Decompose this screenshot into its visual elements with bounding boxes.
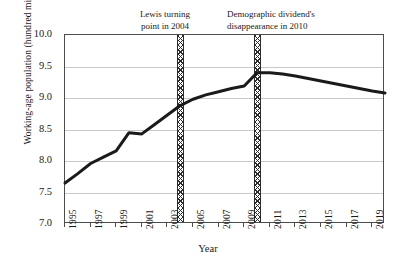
x-axis-tick-label: 2015	[324, 209, 334, 229]
y-axis-tick-labels: 10.09.59.08.58.07.57.0	[0, 0, 60, 266]
plot-area	[64, 34, 384, 223]
x-axis-tick-mark	[320, 223, 321, 227]
x-axis-tick-label: 2007	[222, 209, 232, 229]
x-axis-tick-mark	[218, 223, 219, 227]
y-axis-tick-label: 7.5	[6, 187, 52, 197]
x-axis-tick-mark	[294, 223, 295, 227]
x-axis-tick-mark	[64, 223, 65, 227]
chart-figure: Working-age population (hundred million)…	[0, 0, 400, 266]
x-axis-tick-label: 1995	[68, 209, 78, 229]
annotation-demographic-dividend: Demographic dividend's disappearance in …	[227, 9, 357, 32]
y-axis-tick-label: 9.5	[6, 61, 52, 71]
x-axis-tick-label: 2005	[196, 209, 206, 229]
x-axis-tick-label: 2003	[170, 209, 180, 229]
y-axis-tick-label: 7.0	[6, 218, 52, 228]
x-axis-tick-mark	[243, 223, 244, 227]
y-axis-tick-label: 8.0	[6, 155, 52, 165]
x-axis-tick-label: 2019	[375, 209, 385, 229]
x-axis-tick-mark	[192, 223, 193, 227]
x-axis-title-text: Year	[198, 243, 217, 254]
annotation-lewis-turning-point: Lewis turning point in 2004	[126, 9, 204, 32]
x-axis-tick-label: 2009	[247, 209, 257, 229]
x-axis-tick-mark	[371, 223, 372, 227]
x-axis-tick-mark	[346, 223, 347, 227]
y-axis-tick-label: 9.0	[6, 92, 52, 102]
x-axis-title: Year	[0, 243, 400, 254]
x-axis-tick-mark	[90, 223, 91, 227]
x-axis-tick-label: 2013	[298, 209, 308, 229]
x-axis-tick-label: 2001	[145, 209, 155, 229]
x-axis-tick-mark	[115, 223, 116, 227]
y-axis-tick-label: 8.5	[6, 124, 52, 134]
x-axis-tick-mark	[269, 223, 270, 227]
x-axis-tick-label: 2011	[273, 210, 283, 229]
data-line-working-age-population	[65, 35, 385, 224]
x-axis-tick-mark	[141, 223, 142, 227]
x-axis-tick-mark	[166, 223, 167, 227]
x-axis-tick-label: 2017	[350, 209, 360, 229]
y-axis-tick-label: 10.0	[6, 29, 52, 39]
x-axis-tick-label: 1999	[119, 209, 129, 229]
x-axis-tick-label: 1997	[94, 209, 104, 229]
